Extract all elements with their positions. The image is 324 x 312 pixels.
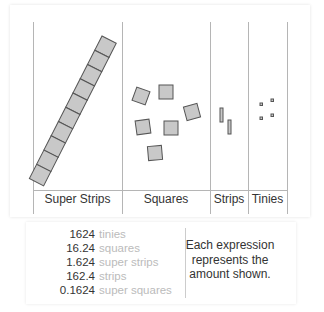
expression-value: 162.4	[25, 270, 95, 282]
expression-row: 16.24squares	[25, 242, 140, 254]
expression-value: 0.1624	[25, 284, 95, 296]
label-tinies: Tinies	[248, 192, 287, 206]
expression-unit: super strips	[99, 256, 158, 268]
expression-row: 162.4strips	[25, 270, 126, 282]
label-strips: Strips	[210, 192, 248, 206]
expression-value: 1624	[25, 228, 95, 240]
expression-unit: tinies	[99, 228, 126, 240]
expression-row: 1624tinies	[25, 228, 126, 240]
expression-unit: squares	[99, 242, 140, 254]
expression-value: 16.24	[25, 242, 95, 254]
expression-unit: strips	[99, 270, 126, 282]
expression-unit: super squares	[99, 284, 172, 296]
strip-blocks	[220, 108, 231, 134]
expression-row: 0.1624super squares	[25, 284, 172, 296]
label-super-strips: Super Strips	[33, 192, 122, 206]
expression-row: 1.624super strips	[25, 256, 158, 268]
explanation-note: Each expression represents the amount sh…	[180, 238, 280, 282]
tiny-blocks	[260, 99, 274, 120]
square-blocks	[132, 85, 201, 161]
label-squares: Squares	[122, 192, 210, 206]
expression-value: 1.624	[25, 256, 95, 268]
super-strip-block	[29, 36, 116, 186]
